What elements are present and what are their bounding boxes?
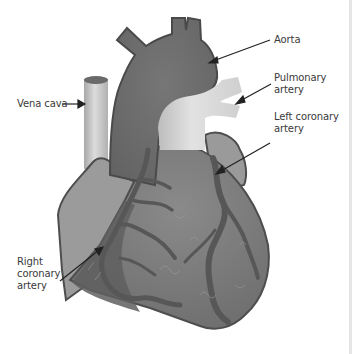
right-coronary-artery-label: Right coronary artery bbox=[17, 256, 60, 292]
vena-cava-arrowhead-icon bbox=[78, 100, 85, 108]
aorta-label: Aorta bbox=[274, 34, 300, 46]
vena-cava-label: Vena cava bbox=[17, 98, 68, 110]
heart-diagram: Aorta Pulmonary artery Vena cava Left co… bbox=[0, 0, 357, 354]
right-coronary-artery-label-line-2: coronary bbox=[17, 268, 60, 280]
right-coronary-artery-label-line-1: Right bbox=[17, 256, 60, 268]
pulmonary-arrow bbox=[240, 84, 271, 101]
left-coronary-artery-label-line-1: Left coronary bbox=[274, 111, 339, 123]
pulmonary-arrowhead-icon bbox=[236, 96, 245, 104]
page-edge-bar bbox=[349, 0, 352, 354]
aorta-label-line: Aorta bbox=[274, 34, 300, 46]
vena-cava-shape bbox=[84, 76, 108, 169]
left-coronary-artery-label-line-2: artery bbox=[274, 123, 339, 135]
vena-cava-label-line: Vena cava bbox=[17, 98, 68, 110]
right-coronary-artery-label-line-3: artery bbox=[17, 280, 60, 292]
left-coronary-artery-label: Left coronary artery bbox=[274, 111, 339, 135]
pulmonary-artery-label-line-1: Pulmonary bbox=[274, 72, 326, 84]
heart-illustration bbox=[0, 0, 357, 354]
aorta-arrow bbox=[213, 40, 270, 61]
pulmonary-artery-label-line-2: artery bbox=[274, 84, 326, 96]
pulmonary-artery-label: Pulmonary artery bbox=[274, 72, 326, 96]
